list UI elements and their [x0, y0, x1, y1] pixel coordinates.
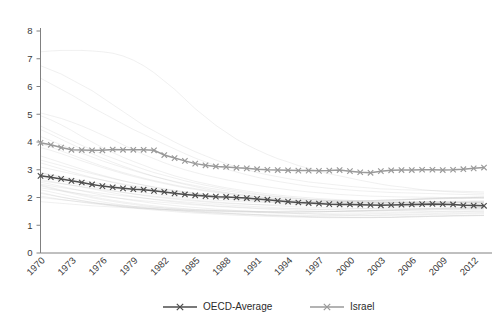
x-axis-tick-label: 1976: [86, 255, 109, 278]
x-axis-tick-label: 1985: [179, 255, 202, 278]
chart-plot-area: 012345678 197019731976197919821985198819…: [0, 0, 498, 325]
legend-label-israel: Israel: [350, 301, 374, 312]
y-axis-tick-label: 4: [27, 136, 32, 147]
y-axis-tick-label: 6: [27, 81, 32, 92]
x-axis-tick-label: 1994: [272, 255, 295, 278]
background-country-line: [41, 50, 485, 193]
chart-axes: [37, 28, 493, 253]
series-line-israel: [41, 143, 485, 173]
y-axis-tick-label: 5: [27, 109, 32, 120]
background-country-line: [41, 66, 485, 192]
x-axis-tick-label: 1982: [148, 255, 171, 278]
y-axis-tick-label: 0: [27, 247, 32, 258]
y-axis-tick-label: 2: [27, 192, 32, 203]
x-axis-tick-label: 1973: [55, 255, 78, 278]
y-axis-tick-label: 1: [27, 220, 32, 231]
fertility-rate-chart: 012345678 197019731976197919821985198819…: [0, 0, 498, 325]
x-axis-tick-label: 2012: [457, 255, 480, 278]
x-axis-tick-label: 1979: [117, 255, 140, 278]
y-axis-tick-label: 7: [27, 53, 32, 64]
chart-legend: OECD-AverageIsrael: [163, 301, 374, 312]
x-axis-tick-label: 2000: [334, 255, 357, 278]
y-axis-tick-label: 8: [27, 25, 32, 36]
x-axis-tick-labels: 1970197319761979198219851988199119941997…: [24, 255, 480, 278]
legend-label-oecd: OECD-Average: [203, 301, 273, 312]
chart-series: [38, 140, 487, 208]
x-axis-tick-label: 2006: [395, 255, 418, 278]
y-axis-tick-label: 3: [27, 164, 32, 175]
y-axis-tick-labels: 012345678: [27, 25, 32, 258]
x-axis-tick-label: 2003: [365, 255, 388, 278]
x-axis-tick-label: 1997: [303, 255, 326, 278]
x-axis-tick-label: 2009: [426, 255, 449, 278]
x-axis-tick-label: 1988: [210, 255, 233, 278]
series-line-oecd: [41, 176, 485, 206]
x-axis-tick-label: 1991: [241, 255, 264, 278]
background-country-lines: [41, 50, 485, 217]
background-country-line: [41, 113, 485, 198]
